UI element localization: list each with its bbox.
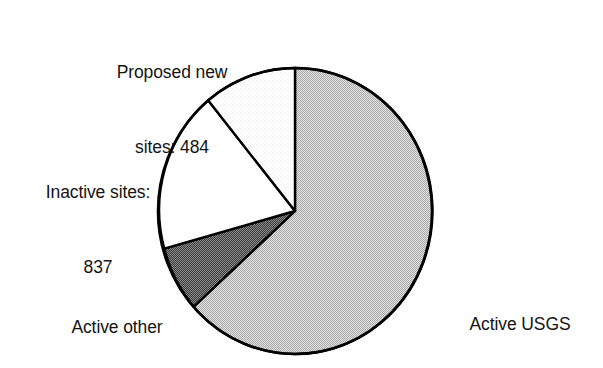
- slice-label-proposed-new-line1: Proposed new: [58, 60, 286, 85]
- slice-label-active-other-agency: Active other agency gage sites: 307: [24, 265, 210, 368]
- slice-label-active-usgs: Active USGS gage sites: 2796: [437, 262, 603, 368]
- slice-label-active-usgs-line1: Active USGS: [437, 312, 603, 337]
- pie-chart-figure: Proposed new sites: 484 Inactive sites: …: [0, 0, 603, 368]
- slice-label-active-other-agency-line1: Active other: [24, 315, 210, 340]
- slice-label-inactive-line1: Inactive sites:: [0, 180, 196, 205]
